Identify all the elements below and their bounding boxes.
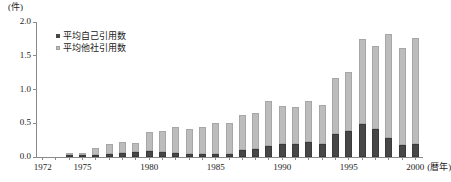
x-tick-mark [362,157,363,160]
x-tick-mark [388,157,389,160]
bar-segment-other-citations [172,127,179,153]
bar-1981 [159,131,166,157]
x-tick-mark [55,157,56,160]
bar-1991 [292,107,299,157]
bar-segment-self-citations [319,144,326,157]
y-axis-unit-label: (件) [8,2,23,12]
legend-swatch-self-icon [56,34,60,38]
x-tick-mark [229,157,230,160]
x-tick-mark [69,157,70,160]
bar-segment-other-citations [132,143,139,152]
bar-segment-self-citations [252,149,259,157]
bar-segment-other-citations [279,106,286,144]
bar-segment-other-citations [319,105,326,143]
bar-segment-other-citations [92,148,99,155]
x-axis-title: (暦年) [427,162,451,173]
bar-segment-self-citations [412,144,419,157]
bar-1979 [132,143,139,157]
bar-segment-self-citations [265,146,272,157]
chart-legend: 平均自己引用数 平均他社引用数 [56,30,126,54]
legend-label-self: 平均自己引用数 [63,30,126,42]
bar-segment-other-citations [146,132,153,151]
bar-segment-self-citations [345,131,352,157]
bar-1987 [239,115,246,157]
y-tick-label: 1.0 [20,84,31,95]
bar-segment-other-citations [212,123,219,154]
x-tick-mark [122,157,123,160]
legend-item-other-citations: 平均他社引用数 [56,42,126,54]
x-tick-mark [242,157,243,160]
y-tick-label: 2.0 [20,16,31,27]
x-tick-mark [149,157,150,160]
x-tick-mark [109,157,110,160]
bar-1990 [279,106,286,157]
y-tick-mark [33,22,37,23]
bar-1995 [345,72,352,157]
bar-segment-self-citations [372,129,379,157]
x-tick-mark [268,157,269,160]
y-tick-label: 1.5 [20,50,31,61]
bar-segment-other-citations [119,142,126,153]
bar-1977 [106,144,113,158]
x-tick-label: 1990 [273,162,291,173]
legend-label-other: 平均他社引用数 [63,42,126,54]
bar-segment-self-citations [279,144,286,157]
bar-1997 [372,46,379,157]
x-tick-mark [402,157,403,160]
x-tick-mark [95,157,96,160]
x-tick-mark [322,157,323,160]
bar-segment-self-citations [399,145,406,157]
x-tick-label: 1975 [74,162,92,173]
x-tick-label: 2000 [406,162,424,173]
bar-segment-other-citations [226,123,233,153]
x-tick-label: 1980 [140,162,158,173]
bar-segment-other-citations [199,127,206,155]
bar-1980 [146,132,153,157]
bar-segment-other-citations [359,39,366,124]
y-tick-mark [33,55,37,56]
bar-segment-other-citations [159,131,166,152]
bar-1996 [359,39,366,157]
x-tick-mark [175,157,176,160]
y-tick-mark [33,157,37,158]
bar-segment-other-citations [412,38,419,144]
bar-1982 [172,127,179,157]
bar-segment-other-citations [305,101,312,142]
x-tick-mark [282,157,283,160]
bar-1998 [385,34,392,157]
bar-1983 [186,129,193,157]
bar-2000 [412,38,419,157]
y-tick-label: 0.0 [20,151,31,162]
bar-1985 [212,123,219,157]
x-tick-mark [42,157,43,160]
bar-segment-self-citations [292,144,299,157]
bar-segment-other-citations [252,113,259,149]
x-tick-mark [135,157,136,160]
bar-1984 [199,127,206,157]
bar-segment-other-citations [345,72,352,131]
y-tick-mark [33,89,37,90]
bar-segment-other-citations [372,46,379,129]
bar-1976 [92,148,99,157]
x-tick-mark [162,157,163,160]
bar-segment-other-citations [265,101,272,146]
legend-swatch-other-icon [56,46,60,50]
x-tick-mark [82,157,83,160]
x-tick-mark [189,157,190,160]
bar-1994 [332,78,339,157]
y-tick-label: 0.5 [20,117,31,128]
bar-segment-self-citations [359,124,366,157]
legend-item-self-citations: 平均自己引用数 [56,30,126,42]
bar-1986 [226,123,233,157]
bar-1989 [265,101,272,157]
x-tick-label: 1985 [207,162,225,173]
bar-segment-other-citations [292,107,299,144]
bar-segment-self-citations [305,142,312,157]
bar-segment-other-citations [186,129,193,153]
bar-segment-other-citations [106,144,113,155]
x-tick-mark [295,157,296,160]
bar-segment-other-citations [239,115,246,150]
bar-segment-other-citations [332,78,339,134]
y-tick-mark [33,123,37,124]
